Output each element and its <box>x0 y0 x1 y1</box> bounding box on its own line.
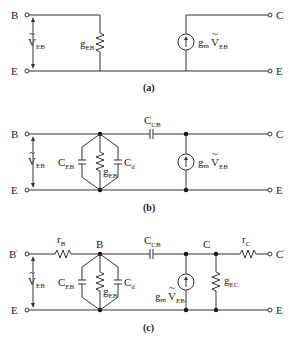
circuit-b: B E C E VEB ~ <box>11 114 283 214</box>
terminal-b: B <box>11 128 18 140</box>
g-eb-label: gEB <box>103 165 118 180</box>
c-cb-label: CCB <box>144 234 161 249</box>
tilde-mark: ~ <box>29 266 35 278</box>
capacitor-icon <box>148 129 155 139</box>
g-eb-label: gEB <box>80 37 95 52</box>
current-source-icon <box>178 134 194 190</box>
resistor-icon <box>240 250 256 258</box>
resistor-icon <box>55 250 71 258</box>
terminal-e-right-node <box>268 188 272 192</box>
terminal-e-right: E <box>276 304 283 316</box>
terminal-c: C <box>276 9 283 21</box>
r-c-label: rC <box>242 233 251 248</box>
current-source-icon <box>178 15 194 71</box>
terminal-b-prime-node <box>25 252 29 256</box>
terminal-e: E <box>11 304 18 316</box>
c-eb-label: CEB <box>58 156 75 171</box>
capacitor-icon <box>78 160 86 164</box>
small-signal-circuit-diagrams: B E C E VEB ~ gEB <box>0 0 302 340</box>
terminal-c-node <box>268 13 272 17</box>
circuit-c: B' E rB rC C' E VEB ~ B <box>9 233 285 334</box>
terminal-c: C <box>276 128 283 140</box>
tilde-mark: ~ <box>169 281 175 293</box>
terminal-b-prime: B' <box>9 248 18 260</box>
terminal-c-node <box>268 132 272 136</box>
terminal-e: E <box>11 184 18 196</box>
terminal-e: E <box>11 65 18 77</box>
g-ec-label: gEC <box>224 274 239 289</box>
terminal-e-node <box>25 188 29 192</box>
c-eb-label: CEB <box>58 276 75 291</box>
node-c-label: C <box>203 238 210 250</box>
terminal-e-right-node <box>268 69 272 73</box>
tilde-mark: ~ <box>29 146 35 158</box>
c-d-label: Cd <box>124 156 135 171</box>
c-cb-label: CCB <box>144 114 161 129</box>
terminal-c-prime-node <box>268 252 272 256</box>
terminal-e-right: E <box>276 65 283 77</box>
tilde-mark: ~ <box>29 27 35 39</box>
resistor-icon <box>212 254 220 310</box>
tilde-mark: ~ <box>212 147 218 159</box>
circuit-a: B E C E VEB ~ gEB <box>11 9 283 94</box>
capacitor-icon <box>78 280 86 284</box>
resistor-icon <box>96 134 104 190</box>
resistor-icon <box>96 15 104 71</box>
caption-a: (a) <box>143 82 155 94</box>
r-b-label: rB <box>57 233 66 248</box>
caption-c: (c) <box>143 322 154 334</box>
terminal-b-node <box>25 132 29 136</box>
terminal-b-node <box>25 13 29 17</box>
terminal-e-right: E <box>276 184 283 196</box>
caption-b: (b) <box>143 202 155 214</box>
capacitor-icon <box>114 280 122 284</box>
c-d-label: Cd <box>124 276 135 291</box>
tilde-mark: ~ <box>212 27 218 39</box>
g-eb-label: gEB <box>103 285 118 300</box>
capacitor-icon <box>114 160 122 164</box>
terminal-e-right-node <box>268 308 272 312</box>
terminal-e-node <box>25 308 29 312</box>
node-b-label: B <box>96 238 103 250</box>
terminal-c-prime: C' <box>276 248 285 260</box>
resistor-icon <box>96 254 104 310</box>
terminal-e-node <box>25 69 29 73</box>
capacitor-icon <box>148 249 155 259</box>
terminal-b: B <box>11 9 18 21</box>
